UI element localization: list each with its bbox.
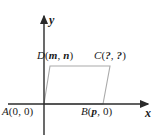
vertex-letter-a: A (2, 105, 9, 117)
vertex-label-b: B(p, 0) (81, 106, 112, 117)
vertex-letter-b: B (81, 105, 88, 117)
figure-canvas (0, 0, 165, 140)
paren-close: ) (30, 105, 34, 117)
vertex-coords-c: (?, ?) (101, 49, 125, 61)
vertex-coords-b: (p, 0) (88, 105, 112, 117)
x-axis-label: x (145, 107, 151, 119)
paren-close: ) (109, 105, 113, 117)
paren-close: ) (122, 49, 126, 61)
y-axis-label: y (49, 14, 54, 26)
parallelogram-shape (44, 66, 110, 104)
vertex-coords-a: (0, 0) (9, 105, 33, 117)
vertex-letter-d: D (37, 49, 45, 61)
coordinate-diagram: y x D(m, n) C(?, ?) A(0, 0) B(p, 0) (0, 0, 165, 140)
vertex-label-a: A(0, 0) (2, 106, 33, 117)
vertex-coords-d: (m, n) (45, 49, 73, 61)
vertex-label-c: C(?, ?) (94, 50, 126, 61)
paren-close: ) (69, 49, 73, 61)
vertex-label-d: D(m, n) (37, 50, 73, 61)
